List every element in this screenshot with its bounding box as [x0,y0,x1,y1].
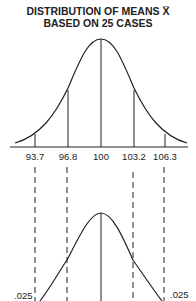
tail-right-label: .025 [170,289,189,300]
tick-4: 103.2 [122,151,146,162]
tick-5: 106.3 [153,151,177,162]
tick-1: 93.7 [26,151,45,162]
tail-left-label: .025 [14,290,33,301]
tick-2: 96.8 [59,151,78,162]
tick-3: 100 [93,151,109,162]
distribution-diagram: 93.7 96.8 100 103.2 106.3 .025 .025 [0,0,196,301]
